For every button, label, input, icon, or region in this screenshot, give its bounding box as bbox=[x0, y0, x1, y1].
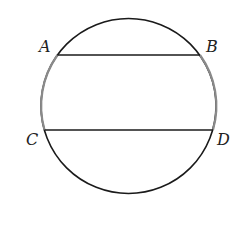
circle bbox=[41, 19, 216, 194]
label-b: B bbox=[205, 37, 218, 56]
label-c: C bbox=[26, 130, 38, 149]
arc-ac bbox=[41, 55, 57, 130]
label-a: A bbox=[37, 37, 51, 56]
circle-diagram: A B C D bbox=[0, 0, 252, 225]
label-d: D bbox=[216, 130, 230, 149]
arc-bd bbox=[200, 55, 216, 130]
